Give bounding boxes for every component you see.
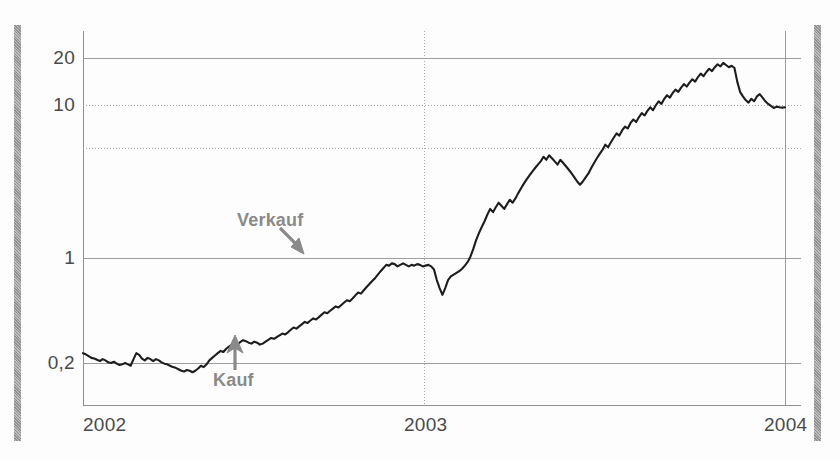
x-axis-label-group: 2002 2003 2004 (0, 414, 840, 444)
y-tick-20: 20 (53, 47, 75, 69)
x-tick-2003: 2003 (404, 414, 447, 436)
x-tick-2002: 2002 (83, 414, 126, 436)
x-tick-2004: 2004 (764, 414, 807, 436)
annotation-arrow-verkauf (278, 226, 312, 260)
y-axis-label-group: 20 10 1 0,2 (0, 31, 75, 406)
right-margin-bar (814, 25, 821, 441)
price-curve-svg (83, 31, 801, 406)
y-tick-0-2: 0,2 (48, 352, 75, 374)
annotation-label-kauf: Kauf (213, 370, 254, 391)
annotation-arrow-kauf (222, 334, 248, 372)
plot-area (83, 31, 801, 406)
y-tick-10: 10 (53, 94, 75, 116)
price-curve-path (83, 63, 785, 372)
chart-page: 20 10 1 0,2 Verkauf Kauf 2002 2003 2004 (0, 0, 840, 459)
y-tick-1: 1 (64, 247, 75, 269)
